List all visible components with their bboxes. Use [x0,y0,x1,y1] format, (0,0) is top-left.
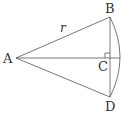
segment-AD [16,58,110,97]
geometry-diagram: A B C D r [0,0,130,116]
label-C: C [98,59,108,74]
label-B: B [105,1,115,16]
right-angle-marker [105,53,110,58]
label-A: A [2,51,13,66]
label-D: D [105,99,115,114]
arc-BD [110,17,120,97]
label-radius: r [60,21,67,35]
